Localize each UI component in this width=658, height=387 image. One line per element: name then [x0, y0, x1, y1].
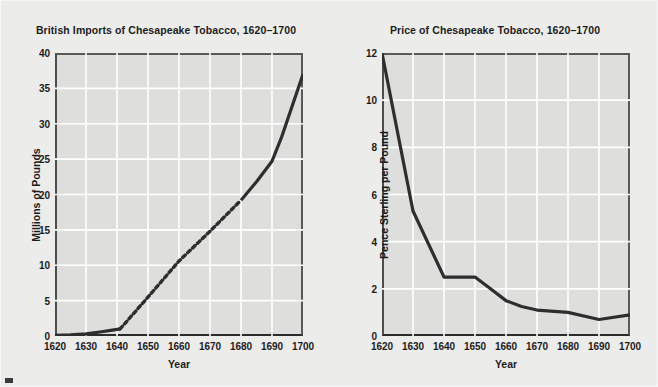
chart-imports-xtick-label: 1640 [106, 341, 128, 352]
chart-imports-ytick-label: 0 [44, 331, 50, 342]
chart-price-yaxis-title: Pence Sterling per Pound [378, 131, 390, 259]
figure-page: British Imports of Chesapeake Tobacco, 1… [0, 0, 658, 387]
chart-imports-series-solid [55, 329, 120, 335]
chart-imports-ytick-label: 5 [44, 295, 50, 306]
chart-imports-yaxis-title: Millions of Pounds [30, 148, 42, 241]
chart-price-ytick-label: 0 [371, 331, 377, 342]
page-corner-artifact [5, 378, 13, 383]
chart-imports-xtick-label: 1670 [199, 341, 221, 352]
chart-imports-svg [55, 53, 303, 336]
chart-price-xtick-label: 1690 [588, 341, 610, 352]
chart-imports-xtick-label: 1690 [261, 341, 283, 352]
chart-price-xtick-label: 1660 [495, 341, 517, 352]
chart-price-xtick-label: 1650 [464, 341, 486, 352]
chart-price-xtick-label: 1630 [402, 341, 424, 352]
chart-imports-plot: 0510152025303540 16201630164016501660167… [55, 53, 303, 336]
chart-price-title: Price of Chesapeake Tobacco, 1620–1700 [332, 24, 658, 36]
chart-price-ytick-label: 4 [371, 236, 377, 247]
chart-price-xtick-label: 1670 [526, 341, 548, 352]
chart-price-xtick-label: 1620 [371, 341, 393, 352]
chart-imports-xtick-label: 1660 [168, 341, 190, 352]
chart-imports-xaxis-title: Year [55, 358, 303, 370]
chart-imports-ytick-label: 30 [39, 118, 50, 129]
chart-price-xtick-label: 1700 [619, 341, 641, 352]
chart-price-xaxis-title: Year [382, 358, 630, 370]
chart-imports-title: British Imports of Chesapeake Tobacco, 1… [0, 24, 332, 36]
chart-price-xtick-label: 1640 [433, 341, 455, 352]
chart-price-ytick-label: 6 [371, 189, 377, 200]
chart-price-ytick-label: 12 [366, 48, 377, 59]
chart-imports-xtick-label: 1650 [137, 341, 159, 352]
chart-imports-xtick-label: 1620 [44, 341, 66, 352]
chart-price-ytick-label: 2 [371, 283, 377, 294]
chart-price: Price of Chesapeake Tobacco, 1620–1700 0… [332, 0, 658, 387]
chart-price-ytick-label: 10 [366, 95, 377, 106]
chart-imports-ytick-label: 35 [39, 83, 50, 94]
chart-price-xtick-label: 1680 [557, 341, 579, 352]
chart-price-svg [382, 53, 630, 336]
chart-imports-ytick-label: 10 [39, 260, 50, 271]
chart-price-plot: 024681012 162016301640165016601670168016… [382, 53, 630, 336]
chart-imports: British Imports of Chesapeake Tobacco, 1… [0, 0, 332, 387]
chart-price-ytick-label: 8 [371, 142, 377, 153]
chart-imports-xtick-label: 1700 [292, 341, 314, 352]
chart-imports-xtick-label: 1630 [75, 341, 97, 352]
chart-imports-ytick-label: 40 [39, 48, 50, 59]
chart-imports-xtick-label: 1680 [230, 341, 252, 352]
